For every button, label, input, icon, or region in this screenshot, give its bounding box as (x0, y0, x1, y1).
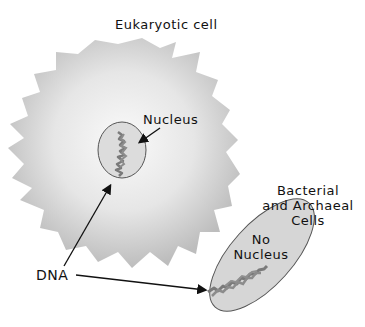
dna-label: DNA (36, 268, 68, 283)
dna-to-prokaryote-arrow (76, 275, 205, 290)
prokaryote-title-line1: Bacterial (258, 183, 358, 198)
prokaryote-title-line3: Cells (258, 213, 358, 228)
no-nucleus-line2: Nucleus (226, 247, 296, 262)
nucleus-label: Nucleus (143, 112, 198, 127)
eukaryotic-cell-title: Eukaryotic cell (115, 17, 218, 32)
prokaryote-title-line2: and Archaeal (258, 198, 358, 213)
no-nucleus-line1: No (226, 232, 296, 247)
no-nucleus-label: No Nucleus (226, 232, 296, 262)
prokaryote-title: Bacterial and Archaeal Cells (258, 183, 358, 228)
